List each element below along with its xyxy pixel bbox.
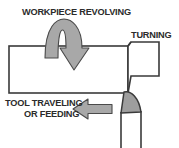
cutting-tool-tip bbox=[121, 92, 141, 113]
turned-reduced-diameter-section bbox=[128, 42, 159, 93]
cutting-tool-shank bbox=[121, 111, 141, 148]
tool-insert-shape bbox=[121, 92, 141, 113]
label-turning: TURNING bbox=[131, 30, 172, 40]
label-or-feeding: OR FEEDING bbox=[24, 109, 79, 119]
turning-operation-diagram: WORKPIECE REVOLVING TURNING TOOL TRAVELI… bbox=[0, 0, 179, 148]
label-tool-traveling: TOOL TRAVELING bbox=[5, 98, 82, 108]
label-workpiece-revolving: WORKPIECE REVOLVING bbox=[22, 7, 131, 17]
diagram-canvas: WORKPIECE REVOLVING TURNING TOOL TRAVELI… bbox=[0, 0, 179, 148]
